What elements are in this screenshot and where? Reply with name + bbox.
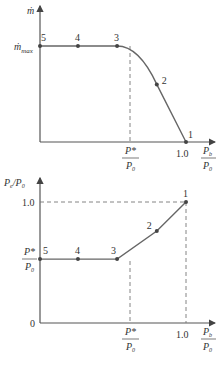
bottom-one-x-tick-label: 1.0 xyxy=(176,329,189,340)
top-chart: 54321 ṁ ṁmax P* P0 1.0 Pb P0 xyxy=(14,5,216,172)
svg-text:P0: P0 xyxy=(125,160,135,172)
nozzle-flow-charts: 54321 ṁ ṁmax P* P0 1.0 Pb P0 54321 Pe/P0… xyxy=(0,0,224,370)
bottom-point-4 xyxy=(76,257,80,261)
top-point-5 xyxy=(38,44,42,48)
bottom-y-axis-label: Pe/P0 xyxy=(3,177,25,189)
top-point-label-5: 5 xyxy=(41,32,46,43)
svg-text:Pb: Pb xyxy=(202,326,212,338)
bottom-zero-tick-label: 0 xyxy=(30,318,35,329)
top-point-3 xyxy=(115,44,119,48)
top-point-label-3: 3 xyxy=(114,32,119,43)
bottom-pstar-y-tick-label: P* P0 xyxy=(22,246,37,273)
bottom-point-label-2: 2 xyxy=(147,220,152,231)
bottom-point-label-4: 4 xyxy=(75,245,80,256)
svg-text:P*: P* xyxy=(124,326,136,337)
mmax-tick-label: ṁmax xyxy=(14,41,34,55)
svg-text:P0: P0 xyxy=(24,261,34,273)
bottom-point-2 xyxy=(155,229,159,233)
top-point-label-4: 4 xyxy=(75,32,80,43)
bottom-x-axis-label: Pb P0 xyxy=(201,326,216,353)
bottom-point-3 xyxy=(115,257,119,261)
top-point-label-2: 2 xyxy=(162,75,167,86)
bottom-one-y-tick-label: 1.0 xyxy=(22,197,35,208)
top-point-1 xyxy=(184,140,188,144)
bottom-point-label-3: 3 xyxy=(111,245,116,256)
svg-text:P*: P* xyxy=(23,246,35,257)
bottom-chart: 54321 Pe/P0 1.0 P* P0 0 P* P0 1.0 Pb P0 xyxy=(3,177,216,353)
top-point-4 xyxy=(76,44,80,48)
bottom-pstar-x-tick-label: P* P0 xyxy=(122,326,139,353)
top-y-axis-label: ṁ xyxy=(27,5,34,16)
bottom-point-5 xyxy=(38,257,42,261)
bottom-point-label-5: 5 xyxy=(43,245,48,256)
top-pstar-tick-label: P* P0 xyxy=(122,145,139,172)
svg-text:P0: P0 xyxy=(125,341,135,353)
svg-text:P0: P0 xyxy=(202,160,212,172)
top-one-tick-label: 1.0 xyxy=(176,148,189,159)
bottom-point-label-1: 1 xyxy=(183,188,188,199)
svg-text:Pb: Pb xyxy=(202,145,212,157)
top-mass-flow-curve xyxy=(40,46,186,142)
top-point-label-1: 1 xyxy=(188,129,193,140)
svg-text:P*: P* xyxy=(124,145,136,156)
top-x-axis-label: Pb P0 xyxy=(201,145,216,172)
bottom-point-1 xyxy=(184,200,188,204)
top-point-2 xyxy=(155,82,159,86)
svg-text:P0: P0 xyxy=(202,341,212,353)
